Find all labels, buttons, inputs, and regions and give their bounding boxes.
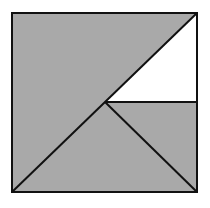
square-dissection-diagram	[0, 0, 210, 208]
